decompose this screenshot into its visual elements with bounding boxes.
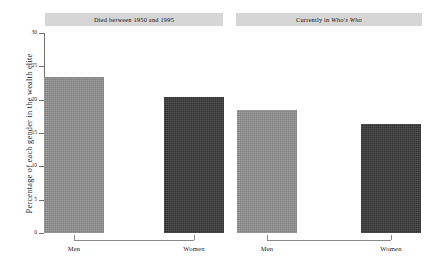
bar-men-panel-0 [44, 77, 104, 233]
y-tick-label: 5 [24, 197, 37, 203]
x-tick-mark [74, 235, 75, 240]
strip-title-italic: Who's Who [331, 16, 362, 23]
panel-strip-label-0: Died between 1950 and 1995 [94, 16, 174, 23]
x-tick-label-men: Men [44, 245, 104, 252]
y-tick-label: 10 [24, 163, 37, 169]
bar-women-panel-1 [361, 124, 421, 233]
strip-title-text: Died between 1950 and 1995 [94, 16, 174, 23]
y-tick-mark [39, 33, 44, 34]
y-tick-label: 0 [24, 230, 37, 236]
bar-chart: Percentage of each gender in the wealth … [0, 0, 431, 267]
y-tick-label: 15 [24, 130, 37, 136]
y-tick-label: 25 [24, 63, 37, 69]
y-tick-mark [39, 233, 44, 234]
x-tick-label-women: Women [164, 245, 224, 252]
bar-women-panel-0 [164, 97, 224, 233]
x-tick-label-men: Men [237, 245, 297, 252]
y-tick-label: 20 [24, 97, 37, 103]
x-tick-mark [391, 235, 392, 240]
x-tick-mark [194, 235, 195, 240]
x-axis-line-panel-0 [74, 240, 194, 241]
panel-strip-0: Died between 1950 and 1995 [45, 13, 223, 26]
panel-strip-1: Currently in Who's Who [236, 13, 422, 26]
x-axis-line-panel-1 [267, 240, 391, 241]
strip-title-text: Currently in [296, 16, 331, 23]
x-tick-mark [267, 235, 268, 240]
panel-currently-in-whos-who [236, 33, 422, 233]
panel-died-between-1950-and-1995 [45, 33, 223, 233]
y-tick-label: 30 [24, 30, 37, 36]
x-tick-label-women: Women [361, 245, 421, 252]
bar-men-panel-1 [237, 110, 297, 233]
y-tick-mark [39, 66, 44, 67]
panel-strip-label-1: Currently in Who's Who [296, 16, 362, 23]
